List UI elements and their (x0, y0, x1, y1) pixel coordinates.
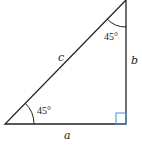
side-label-c: c (58, 51, 64, 64)
angle-label-top: 45° (104, 31, 118, 42)
right-angle-marker (116, 113, 126, 124)
right-triangle-diagram: 45° 45° c b a (0, 0, 142, 148)
angle-arc-top (107, 19, 126, 27)
angle-label-bottom-left: 45° (37, 105, 51, 116)
side-label-b: b (131, 54, 138, 67)
side-label-a: a (64, 129, 71, 142)
triangle (5, 0, 126, 124)
angle-arc-bottom-left (25, 103, 34, 124)
